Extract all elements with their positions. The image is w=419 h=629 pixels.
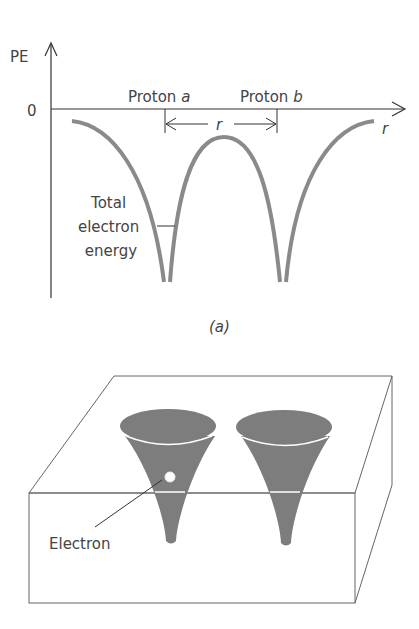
well-a-cone [120,409,216,544]
zero-label: 0 [27,102,37,120]
electron-leader [95,480,162,527]
box-outline [29,376,392,603]
figure: PE 0 r Proton a Proton b r Total electro… [0,0,419,629]
energy-graph: PE 0 r Proton a Proton b r Total electro… [10,43,405,336]
electron-label: Electron [49,535,111,553]
caption-a: (a) [209,318,230,336]
x-axis-label: r [382,120,389,138]
proton-b-label: Proton b [240,88,303,106]
separation-label: r [216,116,223,134]
y-axis-label: PE [10,48,29,66]
electron-icon [165,472,175,482]
well-b-cone [236,410,332,546]
proton-a-label: Proton a [128,88,190,106]
curve-label: Total electron energy [78,194,144,260]
potential-wells-3d: Electron [29,376,392,603]
